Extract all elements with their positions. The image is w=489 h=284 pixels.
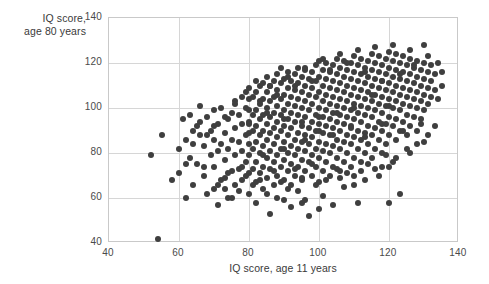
- data-point: [376, 173, 382, 179]
- data-point: [218, 141, 224, 147]
- data-point: [260, 186, 266, 192]
- data-point: [351, 116, 357, 122]
- y-tick-label: 120: [62, 56, 102, 67]
- data-point: [253, 200, 259, 206]
- data-point: [348, 164, 354, 170]
- data-point: [369, 98, 375, 104]
- data-point: [264, 175, 270, 181]
- data-point: [215, 182, 221, 188]
- data-point: [393, 83, 399, 89]
- data-point: [285, 69, 291, 75]
- data-point: [288, 161, 294, 167]
- data-point: [222, 175, 228, 181]
- data-point: [281, 177, 287, 183]
- data-point: [344, 98, 350, 104]
- data-point: [288, 94, 294, 100]
- plot-area: [108, 17, 458, 242]
- data-point: [362, 112, 368, 118]
- x-tick-label: 40: [88, 247, 128, 258]
- data-point: [411, 96, 417, 102]
- data-point: [425, 85, 431, 91]
- y-tick-label: 140: [62, 11, 102, 22]
- data-point: [295, 130, 301, 136]
- data-point: [393, 51, 399, 57]
- data-point: [278, 128, 284, 134]
- data-point: [260, 143, 266, 149]
- data-point: [334, 137, 340, 143]
- data-point: [197, 119, 203, 125]
- data-point: [393, 98, 399, 104]
- data-point: [299, 89, 305, 95]
- data-point: [355, 146, 361, 152]
- data-point: [292, 71, 298, 77]
- data-point: [351, 69, 357, 75]
- data-point: [369, 51, 375, 57]
- data-point: [390, 123, 396, 129]
- data-point: [236, 188, 242, 194]
- gridline-vertical: [319, 18, 320, 241]
- data-point: [327, 85, 333, 91]
- data-point: [267, 83, 273, 89]
- data-point: [306, 92, 312, 98]
- data-point: [435, 96, 441, 102]
- data-point: [309, 134, 315, 140]
- data-point: [344, 67, 350, 73]
- data-point: [351, 155, 357, 161]
- data-point: [271, 141, 277, 147]
- data-point: [274, 173, 280, 179]
- data-point: [253, 123, 259, 129]
- data-point: [278, 179, 284, 185]
- data-point: [358, 168, 364, 174]
- data-point: [288, 110, 294, 116]
- data-point: [376, 85, 382, 91]
- data-point: [334, 71, 340, 77]
- data-point: [295, 164, 301, 170]
- data-point: [295, 188, 301, 194]
- data-point: [404, 146, 410, 152]
- x-tick-label: 100: [298, 247, 338, 258]
- data-point: [229, 168, 235, 174]
- data-point: [337, 112, 343, 118]
- data-point: [376, 53, 382, 59]
- data-point: [285, 132, 291, 138]
- data-point: [204, 191, 210, 197]
- data-point: [236, 139, 242, 145]
- data-point: [236, 166, 242, 172]
- data-point: [295, 146, 301, 152]
- data-point: [320, 98, 326, 104]
- data-point: [232, 182, 238, 188]
- data-point: [372, 76, 378, 82]
- data-point: [428, 94, 434, 100]
- data-point: [236, 112, 242, 118]
- data-point: [337, 175, 343, 181]
- data-point: [260, 164, 266, 170]
- data-point: [267, 130, 273, 136]
- data-point: [337, 80, 343, 86]
- data-point: [281, 146, 287, 152]
- gridline-vertical: [249, 18, 250, 241]
- data-point: [281, 157, 287, 163]
- data-point: [362, 65, 368, 71]
- data-point: [348, 76, 354, 82]
- x-tick-label: 120: [368, 247, 408, 258]
- data-point: [320, 130, 326, 136]
- data-point: [376, 101, 382, 107]
- data-point: [334, 119, 340, 125]
- data-point: [400, 128, 406, 134]
- data-point: [330, 143, 336, 149]
- data-point: [407, 47, 413, 53]
- data-point: [407, 123, 413, 129]
- data-point: [323, 76, 329, 82]
- data-point: [295, 96, 301, 102]
- data-point: [285, 74, 291, 80]
- data-point: [320, 67, 326, 73]
- scatter-plot-figure: IQ score, age 80 years 406080100120140 4…: [0, 0, 489, 284]
- data-point: [327, 116, 333, 122]
- data-point: [379, 110, 385, 116]
- data-point: [362, 177, 368, 183]
- data-point: [323, 159, 329, 165]
- data-point: [271, 78, 277, 84]
- data-point: [271, 125, 277, 131]
- data-point: [299, 200, 305, 206]
- data-point: [400, 85, 406, 91]
